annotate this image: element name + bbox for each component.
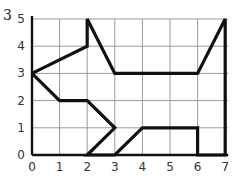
svg-text:6: 6: [194, 160, 202, 174]
svg-text:3: 3: [17, 66, 25, 80]
svg-text:4: 4: [139, 160, 147, 174]
svg-text:5: 5: [17, 12, 25, 26]
svg-text:2: 2: [83, 160, 91, 174]
coordinate-grid-figure: 01234567 012345: [0, 0, 245, 176]
polygon-shape: [32, 19, 225, 155]
svg-text:7: 7: [221, 160, 229, 174]
svg-text:0: 0: [28, 160, 36, 174]
svg-text:2: 2: [17, 94, 25, 108]
svg-text:1: 1: [17, 121, 25, 135]
svg-text:4: 4: [17, 39, 25, 53]
x-tick-labels: 01234567: [28, 160, 229, 174]
svg-text:5: 5: [166, 160, 174, 174]
y-tick-labels: 012345: [17, 12, 25, 162]
svg-text:0: 0: [17, 148, 25, 162]
svg-text:3: 3: [111, 160, 119, 174]
svg-text:1: 1: [56, 160, 64, 174]
